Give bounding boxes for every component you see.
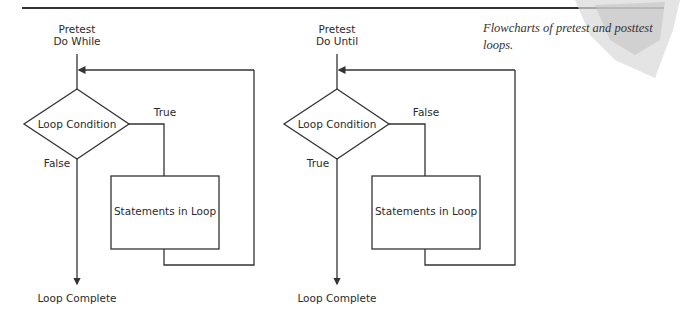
left-title-line1: Pretest <box>47 23 107 35</box>
right-decision-label: Loop Condition <box>287 118 387 130</box>
caption-line1: Flowcharts of pretest and posttest <box>483 20 673 37</box>
right-title-line1: Pretest <box>307 23 367 35</box>
left-decision-label: Loop Condition <box>27 118 127 130</box>
right-process-label: Statements in Loop <box>372 205 480 217</box>
figure-caption: Flowcharts of pretest and posttest loops… <box>483 20 673 54</box>
left-branch-false-label: False <box>42 157 72 169</box>
right-branch-false-label: False <box>408 106 444 118</box>
left-process-label: Statements in Loop <box>111 205 219 217</box>
caption-line2: loops. <box>483 37 673 54</box>
right-terminal-label: Loop Complete <box>287 292 387 304</box>
left-title-line2: Do While <box>37 35 117 47</box>
right-title-line2: Do Until <box>297 35 377 47</box>
right-branch-true-label: True <box>303 157 333 169</box>
left-branch-true-label: True <box>150 106 180 118</box>
left-terminal-label: Loop Complete <box>27 292 127 304</box>
